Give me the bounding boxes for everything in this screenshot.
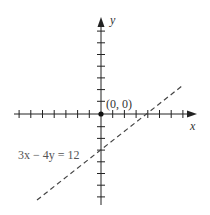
coordinate-plane: y x (0, 0) 3x − 4y = 12 [0, 0, 210, 215]
x-axis [14, 110, 197, 118]
y-axis-arrow-icon [98, 17, 105, 27]
equation-label: 3x − 4y = 12 [18, 148, 80, 162]
y-axis-label: y [109, 13, 116, 27]
x-axis-arrow-icon [187, 111, 197, 118]
x-axis-label: x [189, 119, 196, 133]
y-axis [97, 17, 105, 205]
origin-point [98, 111, 103, 116]
origin-label: (0, 0) [106, 97, 132, 111]
